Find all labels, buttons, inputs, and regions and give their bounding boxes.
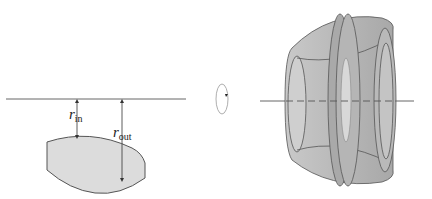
lens-region	[47, 136, 145, 193]
label-r-out: rout	[113, 125, 132, 142]
rotation-arrow-icon	[216, 84, 228, 114]
r-in-subscript: in	[75, 113, 83, 124]
left-inner-face	[288, 56, 306, 152]
diagram-canvas	[0, 0, 432, 199]
middle-disk-hole	[341, 58, 351, 142]
label-r-in: rin	[69, 107, 83, 124]
left-panel	[6, 99, 186, 193]
solid-of-revolution	[260, 14, 414, 186]
r-out-subscript: out	[119, 131, 132, 142]
